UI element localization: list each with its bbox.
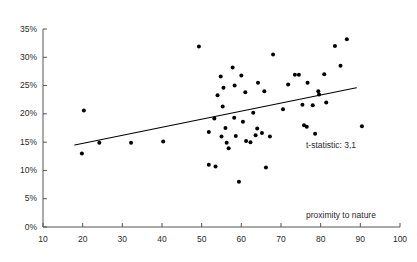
scatter-chart: 0%5%10%15%20%25%30%35% 10203040506070809… (0, 0, 417, 262)
data-point (333, 44, 337, 48)
data-point (271, 52, 275, 56)
x-axis-tick-label: 20 (68, 235, 98, 244)
x-axis-tick-label: 10 (28, 235, 58, 244)
statistic-annotation: t-statistic: 3,1 (306, 141, 356, 150)
y-axis-tick-label: 10% (3, 166, 37, 175)
data-point (305, 125, 309, 129)
x-axis-tick-label: 30 (107, 235, 137, 244)
data-point (297, 73, 301, 77)
data-point (97, 141, 101, 145)
data-point (221, 105, 225, 109)
y-axis-tick-label: 25% (3, 81, 37, 90)
data-point (306, 81, 310, 85)
data-point (161, 140, 165, 144)
data-point (80, 151, 84, 155)
data-point (223, 126, 227, 130)
data-point (300, 103, 304, 107)
data-points (80, 37, 364, 184)
data-point (281, 107, 285, 111)
y-axis-tick-label: 35% (3, 25, 37, 34)
data-point (313, 132, 317, 136)
data-point (256, 81, 260, 85)
x-axis-title: proximity to nature (306, 211, 376, 220)
y-axis-tick-label: 15% (3, 138, 37, 147)
data-point (129, 141, 133, 145)
data-point (293, 73, 297, 77)
data-point (286, 82, 290, 86)
data-point (322, 72, 326, 76)
data-point (244, 139, 248, 143)
data-point (234, 134, 238, 138)
data-point (227, 146, 231, 150)
data-point (317, 93, 321, 97)
x-axis-tick-label: 60 (226, 235, 256, 244)
data-point (197, 45, 201, 49)
data-point (221, 86, 225, 90)
x-axis-tick-label: 50 (187, 235, 217, 244)
data-point (207, 163, 211, 167)
regression-line (75, 88, 357, 145)
data-point (268, 134, 272, 138)
data-point (339, 64, 343, 68)
data-point (232, 116, 236, 120)
data-point (212, 116, 216, 120)
data-point (254, 133, 258, 137)
data-point (324, 101, 328, 105)
data-point (262, 89, 266, 93)
x-axis-tick-label: 40 (147, 235, 177, 244)
data-point (207, 130, 211, 134)
x-axis-tick-label: 100 (385, 235, 415, 244)
y-axis-tick-label: 5% (3, 194, 37, 203)
data-point (216, 93, 220, 97)
x-axis-tick-label: 70 (266, 235, 296, 244)
data-point (316, 89, 320, 93)
data-point (311, 103, 315, 107)
data-point (248, 140, 252, 144)
data-point (241, 120, 245, 124)
data-point (251, 111, 255, 115)
data-point (225, 141, 229, 145)
data-point (231, 65, 235, 69)
data-point (255, 127, 259, 131)
data-point (345, 37, 349, 41)
data-point (237, 180, 241, 184)
data-point (360, 124, 364, 128)
data-point (243, 90, 247, 94)
data-point (239, 73, 243, 77)
data-point (219, 75, 223, 79)
data-point (233, 84, 237, 88)
data-point (220, 134, 224, 138)
y-axis-tick-label: 20% (3, 109, 37, 118)
plot-area (0, 0, 417, 262)
y-axis-tick-label: 0% (3, 223, 37, 232)
x-axis-tick-label: 90 (345, 235, 375, 244)
axes (43, 29, 400, 227)
y-axis-tick-label: 30% (3, 53, 37, 62)
data-point (264, 166, 268, 170)
data-point (260, 131, 264, 135)
data-point (82, 108, 86, 112)
x-axis-tick-label: 80 (306, 235, 336, 244)
trend-line (75, 88, 357, 145)
data-point (214, 164, 218, 168)
